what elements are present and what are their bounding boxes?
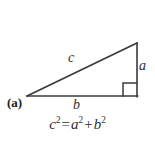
figure-panel-a: c b a (a) c2=a2+b2 [0, 0, 155, 142]
panel-label: (a) [7, 96, 22, 109]
equation-rhs-second-variable: b [94, 116, 102, 132]
side-label-vertical-leg: a [139, 59, 146, 73]
equation-lhs-exponent: 2 [56, 115, 61, 125]
equation-equals-sign: = [61, 116, 71, 132]
right-angle-marker-icon [123, 83, 137, 96]
side-label-base: b [73, 98, 80, 112]
equation-lhs-variable: c [49, 116, 56, 132]
equation-rhs-second-exponent: 2 [101, 115, 106, 125]
triangle-hypotenuse-line [27, 43, 137, 96]
side-label-hypotenuse: c [68, 51, 74, 65]
equation-plus-sign: + [83, 116, 93, 132]
equation-rhs-first-variable: a [71, 116, 79, 132]
pythagorean-equation: c2=a2+b2 [0, 117, 155, 132]
